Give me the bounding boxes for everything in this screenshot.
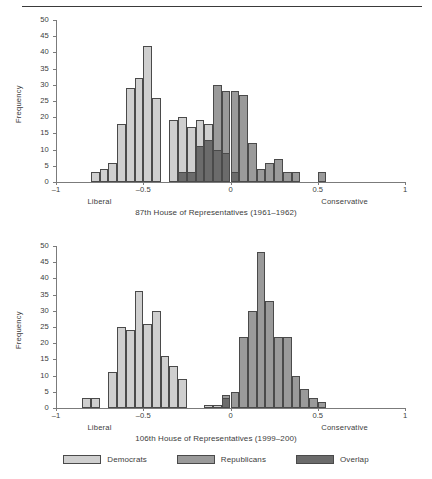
y-tick-label: 35 <box>0 291 49 299</box>
histogram-bar <box>91 172 100 182</box>
plot-area-top <box>56 20 405 182</box>
y-tick-mark <box>53 278 56 279</box>
histogram-bar <box>178 172 187 182</box>
histogram-bar <box>82 398 91 408</box>
y-tick-label: 40 <box>0 275 49 283</box>
y-tick-label: 5 <box>0 388 49 396</box>
x-axis-right-end-label-bottom: Conservative <box>321 423 368 432</box>
y-tick-label: 10 <box>0 372 49 380</box>
histogram-bar <box>169 120 178 182</box>
histogram-bar <box>292 172 301 182</box>
histogram-bar <box>100 169 109 182</box>
histogram-bar <box>274 159 283 182</box>
header-rule <box>22 6 422 7</box>
y-tick-mark <box>53 166 56 167</box>
y-tick-mark <box>53 150 56 151</box>
y-tick-label: 30 <box>0 307 49 315</box>
x-axis-left-end-label-bottom: Liberal <box>87 423 111 432</box>
y-tick-label: 0 <box>0 178 49 186</box>
histogram-bar <box>318 402 327 408</box>
histogram-bar <box>283 337 292 408</box>
histogram-bar <box>135 78 144 182</box>
y-tick-label: 45 <box>0 32 49 40</box>
y-tick-mark <box>53 52 56 53</box>
y-tick-label: 40 <box>0 49 49 57</box>
chart-title-top: 87th House of Representatives (1961–1962… <box>0 208 432 217</box>
histogram-bar <box>283 172 292 182</box>
legend-item: Republicans <box>177 455 266 464</box>
x-axis-left-end-label-top: Liberal <box>87 197 111 206</box>
legend-item: Overlap <box>296 455 369 464</box>
histogram-bar <box>108 163 117 182</box>
histogram-bar <box>265 163 274 182</box>
plot-area-bottom <box>56 246 405 408</box>
histogram-bar <box>187 172 196 182</box>
histogram-bar <box>309 398 318 408</box>
histogram-bar <box>152 311 161 408</box>
chart-panel-top: Frequency Liberal Conservative 87th Hous… <box>0 14 432 230</box>
x-tick-label: –0.5 <box>136 186 151 194</box>
y-tick-mark <box>53 392 56 393</box>
x-tick-label: –1 <box>52 186 60 194</box>
legend-label: Democrats <box>107 455 147 464</box>
legend-swatch-republicans <box>177 455 215 464</box>
histogram-bar <box>126 330 135 408</box>
histogram-bar <box>126 88 135 182</box>
x-tick-label: 1 <box>403 412 407 420</box>
chart-panel-bottom: Frequency Liberal Conservative 106th Hou… <box>0 240 432 440</box>
histogram-bar <box>248 143 257 182</box>
x-tick-label: –1 <box>52 412 60 420</box>
histogram-bar <box>143 46 152 182</box>
y-tick-label: 50 <box>0 16 49 24</box>
legend-swatch-overlap <box>296 455 334 464</box>
y-tick-label: 15 <box>0 356 49 364</box>
y-axis-line <box>56 246 57 408</box>
legend-label: Republicans <box>221 455 266 464</box>
y-tick-mark <box>53 117 56 118</box>
histogram-bar <box>222 153 231 182</box>
y-tick-mark <box>53 20 56 21</box>
y-tick-mark <box>53 133 56 134</box>
y-tick-label: 5 <box>0 162 49 170</box>
y-tick-label: 45 <box>0 258 49 266</box>
y-tick-label: 15 <box>0 130 49 138</box>
histogram-bar <box>257 169 266 182</box>
x-tick-label: 0 <box>228 186 232 194</box>
histogram-bar <box>117 327 126 408</box>
y-tick-label: 25 <box>0 323 49 331</box>
histogram-bar <box>231 392 240 408</box>
y-tick-label: 50 <box>0 242 49 250</box>
histogram-bar <box>265 301 274 408</box>
y-tick-mark <box>53 101 56 102</box>
histogram-bar <box>248 311 257 408</box>
chart-title-bottom: 106th House of Representatives (1999–200… <box>0 434 432 443</box>
histogram-bar <box>239 95 248 182</box>
y-tick-label: 20 <box>0 113 49 121</box>
x-tick-label: –0.5 <box>136 412 151 420</box>
y-tick-mark <box>53 376 56 377</box>
y-tick-label: 0 <box>0 404 49 412</box>
y-tick-mark <box>53 295 56 296</box>
y-tick-label: 35 <box>0 65 49 73</box>
histogram-bar <box>178 379 187 408</box>
y-axis-line <box>56 20 57 182</box>
histogram-bar <box>108 372 117 408</box>
y-tick-mark <box>53 343 56 344</box>
y-tick-mark <box>53 327 56 328</box>
histogram-bar <box>204 140 213 182</box>
y-tick-label: 30 <box>0 81 49 89</box>
y-tick-mark <box>53 85 56 86</box>
histogram-bar <box>257 252 266 408</box>
legend: DemocratsRepublicansOverlap <box>0 450 432 468</box>
histogram-bar <box>292 376 301 408</box>
legend-item: Democrats <box>63 455 147 464</box>
histogram-bar <box>169 366 178 408</box>
legend-swatch-democrats <box>63 455 101 464</box>
y-tick-mark <box>53 311 56 312</box>
histogram-bar <box>274 337 283 408</box>
histogram-bar <box>231 91 240 182</box>
histogram-bar <box>204 405 213 408</box>
y-tick-label: 20 <box>0 339 49 347</box>
x-tick-label: 0.5 <box>312 412 323 420</box>
histogram-bar <box>318 172 327 182</box>
